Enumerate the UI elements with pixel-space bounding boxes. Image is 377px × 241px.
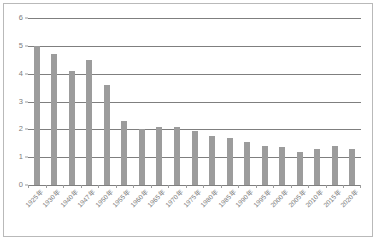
category-axis-tick-label: 1965年 xyxy=(147,189,167,209)
y-axis-tick-label: 5 xyxy=(19,42,23,50)
category-axis-tick-mark xyxy=(151,185,152,188)
bar xyxy=(34,46,40,185)
bar xyxy=(156,127,162,185)
bar xyxy=(244,142,250,185)
category-axis-tick-label: 1970年 xyxy=(165,189,185,209)
y-axis-tick-label: 0 xyxy=(19,181,23,189)
bar xyxy=(332,146,338,185)
bar xyxy=(227,138,233,185)
category-axis-tick-mark xyxy=(46,185,47,188)
bar-series xyxy=(28,18,361,185)
category-axis-tick-mark xyxy=(203,185,204,188)
category-axis-tick-label: 1980年 xyxy=(200,189,220,209)
plot-area: 0123456 xyxy=(28,18,361,185)
category-axis-tick-label: 1985年 xyxy=(217,189,237,209)
category-axis-tick-labels: 1925年1930年1940年1947年1950年1955年1960年1965年… xyxy=(28,189,361,231)
bar xyxy=(104,85,110,185)
category-axis-tick-label: 2000年 xyxy=(270,189,290,209)
bar xyxy=(121,121,127,185)
bar xyxy=(349,149,355,185)
category-axis-tick-label: 1995年 xyxy=(252,189,272,209)
category-axis-tick-label: 2015年 xyxy=(322,189,342,209)
category-axis-tick-label: 2010年 xyxy=(305,189,325,209)
category-axis-tick-label: 1925年 xyxy=(24,189,44,209)
category-axis-tick-mark xyxy=(221,185,222,188)
category-axis-tick-mark xyxy=(116,185,117,188)
bar xyxy=(297,152,303,185)
y-axis-tick-label: 6 xyxy=(19,14,23,22)
category-axis-tick-mark xyxy=(98,185,99,188)
category-axis-tick-label: 1940年 xyxy=(59,189,79,209)
category-axis-tick-mark xyxy=(63,185,64,188)
category-axis-tick-mark xyxy=(291,185,292,188)
category-axis-tick-label: 1990年 xyxy=(235,189,255,209)
category-axis-tick-label: 1975年 xyxy=(182,189,202,209)
y-axis-tick-label: 4 xyxy=(19,70,23,78)
y-axis-tick-label: 2 xyxy=(19,126,23,134)
bar xyxy=(192,131,198,185)
bar xyxy=(51,54,57,185)
category-axis-tick-mark xyxy=(343,185,344,188)
category-axis-tick-label: 1930年 xyxy=(42,189,62,209)
category-axis-tick-mark xyxy=(256,185,257,188)
category-axis-tick-mark xyxy=(168,185,169,188)
category-axis-tick-label: 1947年 xyxy=(77,189,97,209)
category-axis-tick-mark xyxy=(81,185,82,188)
category-axis-tick-label: 2020年 xyxy=(340,189,360,209)
category-axis-tick-mark xyxy=(238,185,239,188)
bar xyxy=(69,71,75,185)
category-axis-tick-mark xyxy=(133,185,134,188)
bar xyxy=(262,146,268,185)
bar xyxy=(314,149,320,185)
category-axis-tick-mark xyxy=(28,185,29,188)
category-axis-tick-mark xyxy=(186,185,187,188)
bar xyxy=(139,129,145,185)
bar xyxy=(209,136,215,185)
category-axis-tick-mark xyxy=(308,185,309,188)
category-axis-tick-mark xyxy=(273,185,274,188)
bar xyxy=(86,60,92,185)
category-axis-tick-label: 1950年 xyxy=(95,189,115,209)
chart-frame: 0123456 1925年1930年1940年1947年1950年1955年19… xyxy=(3,3,373,237)
y-axis-tick-label: 1 xyxy=(19,153,23,161)
category-axis-tick-label: 1955年 xyxy=(112,189,132,209)
category-axis-tick-label: 1960年 xyxy=(130,189,150,209)
bar xyxy=(279,147,285,185)
category-axis-tick-label: 2005年 xyxy=(287,189,307,209)
y-axis-tick-label: 3 xyxy=(19,98,23,106)
category-axis-tick-mark xyxy=(360,185,361,188)
category-axis xyxy=(28,185,361,186)
bar xyxy=(174,127,180,185)
category-axis-tick-mark xyxy=(326,185,327,188)
